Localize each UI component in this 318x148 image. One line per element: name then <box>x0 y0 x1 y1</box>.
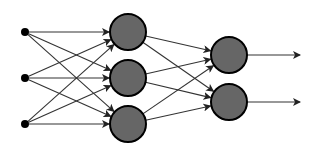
output-node-o2 <box>211 84 247 120</box>
edge-i1-h2 <box>29 34 111 71</box>
edges-group <box>28 32 300 124</box>
input-node-i2 <box>21 74 29 82</box>
edge-h1-o1 <box>146 36 211 51</box>
edge-i3-h1 <box>28 45 114 122</box>
edge-h2-o1 <box>146 59 211 74</box>
edge-i3-h2 <box>29 86 111 123</box>
network-svg <box>0 0 318 148</box>
edge-h3-o2 <box>146 106 211 120</box>
output-node-o1 <box>211 37 247 73</box>
edge-i1-h3 <box>28 35 114 112</box>
neural-network-diagram <box>0 0 318 148</box>
input-node-i1 <box>21 28 29 36</box>
input-node-i3 <box>21 120 29 128</box>
hidden-node-h3 <box>110 106 146 142</box>
hidden-node-h2 <box>110 60 146 96</box>
hidden-node-h1 <box>110 14 146 50</box>
edge-h3-o1 <box>143 66 213 114</box>
